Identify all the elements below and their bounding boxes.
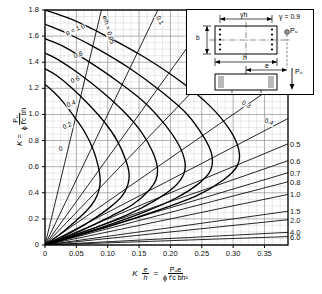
right-eh-tick-6.0: 6.0 — [290, 233, 312, 242]
right-eh-tick-0.8: 0.8 — [290, 178, 312, 187]
x-axis-ratio-denominator: h — [142, 274, 150, 281]
x-tick-0.35: 0.35 — [249, 249, 279, 258]
inset-label-h: h — [243, 54, 247, 61]
x-axis-ratio-numerator: e — [142, 266, 150, 274]
y-axis-denominator: ϕ f'ᴄ bh — [21, 106, 28, 132]
y-axis-numerator: Pᵤ — [12, 113, 20, 124]
x-axis-title: K e h = Pᵤe ϕ f'ᴄ bh² — [0, 266, 322, 282]
load-arrow-bottom — [290, 68, 295, 90]
x-axis-numerator: Pᵤe — [168, 266, 183, 274]
x-tick-0.05: 0.05 — [61, 249, 91, 258]
right-eh-tick-0.7: 0.7 — [290, 169, 312, 178]
inset-label-b: b — [196, 34, 200, 41]
inset-diagram — [187, 10, 313, 94]
y-tick-0.4: 0.4 — [13, 188, 39, 197]
x-tick-0.25: 0.25 — [187, 249, 217, 258]
inset-cross-section-panel: γh b h e Pᵤ Pᵤ γ = 0.9 — [186, 9, 314, 95]
x-tick-0: 0 — [30, 249, 60, 258]
x-tick-0.20: 0.20 — [155, 249, 185, 258]
x-tick-0.15: 0.15 — [124, 249, 154, 258]
y-axis-equals: = — [16, 134, 25, 138]
x-tick-0.10: 0.10 — [93, 249, 123, 258]
right-eh-tick-1.0: 1.0 — [290, 190, 312, 199]
right-eh-tick-0.6: 0.6 — [290, 157, 312, 166]
section-outline-bottom — [215, 74, 277, 90]
inset-label-gamma-h: γh — [240, 11, 247, 18]
y-tick-1.4: 1.4 — [13, 57, 39, 66]
inset-label-e: e — [265, 62, 269, 69]
x-tick-0.30: 0.30 — [218, 249, 248, 258]
right-eh-tick-2.0: 2.0 — [290, 216, 312, 225]
inset-label-pu-bottom: Pᵤ — [295, 68, 302, 75]
inset-label-pu-top: Pᵤ — [290, 27, 297, 34]
y-tick-1.6: 1.6 — [13, 31, 39, 40]
inset-label-gamma-value: γ = 0.9 — [279, 13, 300, 20]
x-axis-denominator: ϕ f'ᴄ bh² — [161, 274, 190, 281]
x-axis-symbol: K — [132, 269, 137, 278]
y-tick-1.8: 1.8 — [13, 5, 39, 14]
x-axis-equals: = — [153, 269, 158, 278]
chart-root: 00.20.40.60.81.01.21.41.61.8 00.050.100.… — [0, 0, 322, 294]
load-point-dot — [286, 31, 288, 33]
y-axis-title: K = Pᵤ ϕ f'ᴄ bh — [12, 86, 28, 166]
y-axis-symbol: K — [16, 141, 25, 146]
right-eh-tick-0.5: 0.5 — [290, 140, 312, 149]
y-tick-0: 0 — [13, 240, 39, 249]
y-tick-0.2: 0.2 — [13, 214, 39, 223]
